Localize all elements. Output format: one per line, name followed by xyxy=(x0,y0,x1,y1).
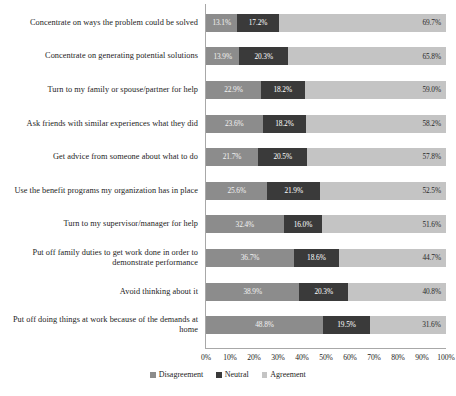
bar-value-label: 13.1% xyxy=(212,19,231,26)
legend-item-neutral[interactable]: Neutral xyxy=(216,370,249,380)
x-tick-label: 60% xyxy=(343,352,357,364)
bar-value-label: 40.8% xyxy=(422,288,446,295)
x-tick-label: 0% xyxy=(201,352,211,364)
x-tick-label: 90% xyxy=(415,352,429,364)
bar-segment-agreement: 59.0% xyxy=(305,81,446,99)
plot-area: Concentrate on ways the problem could be… xyxy=(0,0,456,352)
legend-swatch-icon xyxy=(150,372,156,378)
stacked-bar: 23.6%18.2%58.2% xyxy=(206,115,446,133)
bar-value-label: 18.2% xyxy=(275,120,294,127)
bar-segment-disagreement: 22.9% xyxy=(206,81,261,99)
bar-segment-agreement: 58.2% xyxy=(306,115,446,133)
bar-value-label: 51.6% xyxy=(422,221,446,228)
stacked-bar: 36.7%18.6%44.7% xyxy=(206,249,446,267)
bar-value-label: 20.3% xyxy=(314,288,333,295)
bar-value-label: 65.8% xyxy=(422,53,446,60)
bar-segment-neutral: 18.6% xyxy=(294,249,339,267)
bar-segment-neutral: 17.2% xyxy=(237,14,278,32)
bar-segment-agreement: 44.7% xyxy=(339,249,446,267)
bar-segment-disagreement: 23.6% xyxy=(206,115,263,133)
x-tick-label: 100% xyxy=(437,352,454,364)
bar-value-label: 17.2% xyxy=(249,19,268,26)
category-label: Put off doing things at work because of … xyxy=(0,315,202,335)
category-label: Concentrate on generating potential solu… xyxy=(0,51,202,61)
bar-value-label: 25.6% xyxy=(227,187,246,194)
bar-segment-agreement: 51.6% xyxy=(322,215,446,233)
bar-value-label: 18.6% xyxy=(307,254,326,261)
bar-value-label: 38.9% xyxy=(243,288,262,295)
category-label: Concentrate on ways the problem could be… xyxy=(0,18,202,28)
stacked-bar: 38.9%20.3%40.8% xyxy=(206,283,446,301)
x-tick-label: 40% xyxy=(295,352,309,364)
bar-segment-disagreement: 13.9% xyxy=(206,47,239,65)
chart-row: Turn to my supervisor/manager for help32… xyxy=(0,208,456,242)
bar-segment-disagreement: 25.6% xyxy=(206,182,267,200)
chart-row: Put off doing things at work because of … xyxy=(0,308,456,342)
legend-label: Disagreement xyxy=(159,370,203,380)
bar-value-label: 58.2% xyxy=(422,120,446,127)
bar-segment-neutral: 16.0% xyxy=(284,215,322,233)
bar-segment-neutral: 18.2% xyxy=(261,81,305,99)
bar-segment-disagreement: 48.8% xyxy=(206,316,323,334)
bar-value-label: 69.7% xyxy=(422,19,446,26)
x-tick-label: 20% xyxy=(247,352,261,364)
category-label: Turn to my family or spouse/partner for … xyxy=(0,85,202,95)
legend-item-agreement[interactable]: Agreement xyxy=(262,370,306,380)
bar-segment-agreement: 57.8% xyxy=(307,148,446,166)
x-tick-label: 80% xyxy=(391,352,405,364)
stacked-bar: 13.9%20.3%65.8% xyxy=(206,47,446,65)
stacked-bar: 22.9%18.2%59.0% xyxy=(206,81,446,99)
chart-row: Concentrate on generating potential solu… xyxy=(0,40,456,74)
category-label: Use the benefit programs my organization… xyxy=(0,186,202,196)
bar-segment-agreement: 65.8% xyxy=(288,47,446,65)
legend-item-disagreement[interactable]: Disagreement xyxy=(150,370,203,380)
bar-value-label: 59.0% xyxy=(422,86,446,93)
legend-swatch-icon xyxy=(262,372,268,378)
bar-segment-disagreement: 38.9% xyxy=(206,283,299,301)
x-tick-label: 70% xyxy=(367,352,381,364)
category-label: Avoid thinking about it xyxy=(0,287,202,297)
bar-segment-neutral: 20.5% xyxy=(258,148,307,166)
chart-row: Avoid thinking about it38.9%20.3%40.8% xyxy=(0,275,456,309)
bar-segment-neutral: 18.2% xyxy=(263,115,307,133)
stacked-bar: 25.6%21.9%52.5% xyxy=(206,182,446,200)
bar-segment-agreement: 40.8% xyxy=(348,283,446,301)
bar-value-label: 22.9% xyxy=(224,86,243,93)
bar-segment-neutral: 19.5% xyxy=(323,316,370,334)
bar-value-label: 16.0% xyxy=(294,221,313,228)
bar-segment-neutral: 20.3% xyxy=(299,283,348,301)
x-tick-label: 10% xyxy=(223,352,237,364)
bar-value-label: 20.3% xyxy=(254,53,273,60)
bar-segment-disagreement: 21.7% xyxy=(206,148,258,166)
bar-value-label: 32.4% xyxy=(236,221,255,228)
bar-segment-agreement: 31.6% xyxy=(370,316,446,334)
chart-row: Concentrate on ways the problem could be… xyxy=(0,6,456,40)
bar-value-label: 36.7% xyxy=(241,254,260,261)
stacked-bar: 13.1%17.2%69.7% xyxy=(206,14,446,32)
legend-label: Agreement xyxy=(270,370,306,380)
chart-row: Ask friends with similar experiences wha… xyxy=(0,107,456,141)
stacked-bar: 21.7%20.5%57.8% xyxy=(206,148,446,166)
chart-legend: DisagreementNeutralAgreement xyxy=(0,370,456,380)
x-axis-line xyxy=(205,348,446,349)
bar-segment-agreement: 52.5% xyxy=(320,182,446,200)
bar-segment-disagreement: 36.7% xyxy=(206,249,294,267)
legend-swatch-icon xyxy=(216,372,222,378)
category-label: Turn to my supervisor/manager for help xyxy=(0,219,202,229)
bar-value-label: 18.2% xyxy=(273,86,292,93)
legend-label: Neutral xyxy=(225,370,249,380)
x-tick-label: 30% xyxy=(271,352,285,364)
x-tick-label: 50% xyxy=(319,352,333,364)
stacked-bar: 32.4%16.0%51.6% xyxy=(206,215,446,233)
bar-value-label: 13.9% xyxy=(213,53,232,60)
bar-value-label: 21.9% xyxy=(284,187,303,194)
chart-row: Turn to my family or spouse/partner for … xyxy=(0,73,456,107)
chart-row: Get advice from someone about what to do… xyxy=(0,140,456,174)
bar-segment-disagreement: 13.1% xyxy=(206,14,237,32)
bar-segment-disagreement: 32.4% xyxy=(206,215,284,233)
chart-row: Put off family duties to get work done i… xyxy=(0,241,456,275)
bar-value-label: 48.8% xyxy=(255,321,274,328)
bar-segment-neutral: 20.3% xyxy=(239,47,288,65)
bar-value-label: 57.8% xyxy=(422,153,446,160)
chart-row: Use the benefit programs my organization… xyxy=(0,174,456,208)
